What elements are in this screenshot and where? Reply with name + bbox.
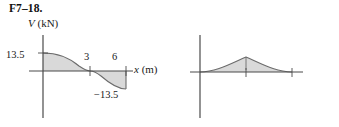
shear-axis-label: V (kN) (28, 18, 58, 29)
moment-diagram-graphic (168, 0, 339, 127)
shear-start-value: 13.5 (6, 50, 24, 61)
shear-negative-area (90, 71, 126, 89)
shear-x-axis-units: (m) (139, 63, 158, 75)
figure-container: F7–18. V (kN) 13.5 3 6 −13.5 x (m) (0, 0, 339, 127)
shear-end-value: −13.5 (94, 90, 118, 101)
shear-x-axis-label: x (m) (134, 64, 158, 75)
shear-tick-label-6: 6 (112, 52, 117, 63)
shear-tick-label-3: 3 (84, 52, 89, 63)
shear-diagram-panel: V (kN) 13.5 3 6 −13.5 x (m) (0, 0, 172, 127)
shear-axis-units: (kN) (35, 17, 59, 29)
moment-diagram-panel: M (kN·m) 27 3 6 x (m) (168, 0, 339, 127)
shear-axis-symbol: V (28, 17, 35, 29)
